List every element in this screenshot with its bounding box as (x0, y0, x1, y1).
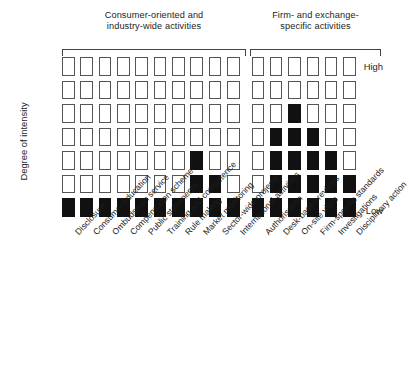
intensity-cell (227, 104, 240, 123)
intensity-row (62, 57, 381, 76)
intensity-cell (209, 128, 222, 147)
intensity-cell (209, 104, 222, 123)
intensity-cell (288, 81, 301, 100)
intensity-cell (190, 57, 203, 76)
intensity-cell (117, 57, 130, 76)
intensity-cell (62, 57, 75, 76)
intensity-cell (343, 81, 356, 100)
intensity-cell (135, 151, 148, 170)
intensity-cell (190, 81, 203, 100)
intensity-cell (172, 151, 185, 170)
intensity-cell (62, 175, 75, 194)
intensity-cell (80, 57, 93, 76)
intensity-cell (343, 151, 356, 170)
intensity-cell (307, 57, 320, 76)
group-header-firm-specific: Firm- and exchange- specific activities (250, 10, 381, 33)
intensity-row (62, 128, 381, 147)
intensity-cell (190, 104, 203, 123)
intensity-cell (209, 81, 222, 100)
intensity-cell (80, 81, 93, 100)
y-axis-title: Degree of intensity (18, 82, 29, 202)
intensity-cell (343, 128, 356, 147)
intensity-cell (117, 81, 130, 100)
intensity-cell (288, 57, 301, 76)
intensity-cell (307, 104, 320, 123)
intensity-cell (288, 128, 301, 147)
intensity-cell (80, 151, 93, 170)
intensity-cell (307, 151, 320, 170)
intensity-cell (172, 57, 185, 76)
intensity-cell (190, 128, 203, 147)
intensity-cell (227, 128, 240, 147)
intensity-cell (99, 57, 112, 76)
intensity-cell (80, 104, 93, 123)
intensity-row (62, 151, 381, 170)
intensity-cell (288, 151, 301, 170)
intensity-cell (270, 128, 283, 147)
intensity-cell (135, 104, 148, 123)
intensity-cell (252, 81, 265, 100)
group-bracket-consumer-oriented (62, 49, 246, 56)
intensity-cell (288, 104, 301, 123)
intensity-cell (325, 128, 338, 147)
intensity-cell (154, 57, 167, 76)
intensity-cell (172, 104, 185, 123)
intensity-cell (135, 57, 148, 76)
intensity-cell (325, 151, 338, 170)
intensity-cell (99, 104, 112, 123)
intensity-cell (99, 128, 112, 147)
intensity-row (62, 81, 381, 100)
intensity-cell (252, 128, 265, 147)
intensity-cell (99, 81, 112, 100)
intensity-cell (172, 81, 185, 100)
intensity-cell (325, 81, 338, 100)
intensity-cell (62, 128, 75, 147)
intensity-cell (270, 57, 283, 76)
intensity-row (62, 104, 381, 123)
intensity-cell (270, 104, 283, 123)
intensity-cell (117, 151, 130, 170)
intensity-cell (80, 175, 93, 194)
intensity-cell (154, 104, 167, 123)
intensity-cell (190, 151, 203, 170)
intensity-cell (252, 57, 265, 76)
intensity-cell (172, 128, 185, 147)
intensity-cell (270, 81, 283, 100)
intensity-cell (62, 151, 75, 170)
intensity-cell (325, 104, 338, 123)
intensity-cell (252, 104, 265, 123)
intensity-cell (209, 57, 222, 76)
intensity-cell (209, 151, 222, 170)
intensity-cell (343, 57, 356, 76)
intensity-cell (99, 175, 112, 194)
intensity-cell (227, 57, 240, 76)
intensity-cell (117, 128, 130, 147)
column-label-group: DisclosureConsumer educationOmbudsman se… (0, 228, 383, 371)
intensity-cell (117, 104, 130, 123)
intensity-cell (270, 151, 283, 170)
intensity-cell (227, 81, 240, 100)
group-header-consumer-oriented: Consumer-oriented and industry-wide acti… (62, 10, 246, 33)
intensity-cell (252, 151, 265, 170)
intensity-cell (99, 151, 112, 170)
intensity-cell (307, 81, 320, 100)
intensity-cell (80, 128, 93, 147)
intensity-cell (343, 104, 356, 123)
intensity-cell (325, 57, 338, 76)
intensity-cell (135, 81, 148, 100)
intensity-cell (307, 128, 320, 147)
intensity-cell (62, 104, 75, 123)
intensity-cell (62, 198, 75, 217)
intensity-cell (135, 128, 148, 147)
intensity-cell (154, 151, 167, 170)
group-bracket-firm-specific (250, 49, 381, 56)
intensity-cell (154, 128, 167, 147)
intensity-cell (154, 81, 167, 100)
intensity-cell (62, 81, 75, 100)
